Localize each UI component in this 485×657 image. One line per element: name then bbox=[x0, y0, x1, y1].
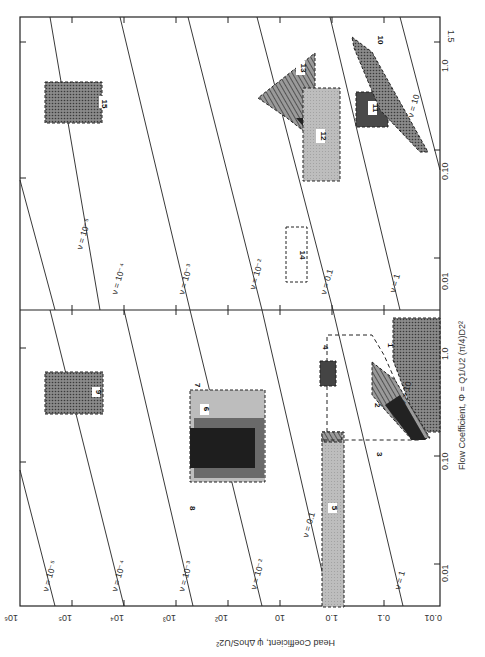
region-label-8: 8 bbox=[188, 506, 197, 511]
nu-line-1e-4-right bbox=[120, 17, 190, 310]
nu-label-1e-4-right: ν = 10⁻⁴ bbox=[109, 262, 128, 296]
nu-label-0.1-right: ν = 0.1 bbox=[318, 268, 335, 296]
psi-tick-10: 10 bbox=[275, 613, 285, 623]
nu-label-1-right: ν = 1 bbox=[387, 273, 402, 294]
region-5 bbox=[322, 432, 344, 607]
psi-tick-1e2: 10² bbox=[215, 613, 228, 623]
region-label-7: 7 bbox=[193, 383, 202, 388]
nu-label-10-right: ν = 10 bbox=[405, 93, 421, 119]
phi-tick-0.01-right: 0.01 bbox=[440, 272, 450, 290]
psi-tick-1e6: 10⁶ bbox=[4, 613, 18, 623]
nu-label-1e-5-right: ν = 10⁻⁵ bbox=[74, 217, 92, 250]
region-label-13: 13 bbox=[299, 64, 308, 73]
phi-tick-1.0-right: 1.0 bbox=[440, 59, 450, 72]
region-label-10-right: 10 bbox=[376, 36, 385, 45]
nu-label-1e-3-right: ν = 10⁻³ bbox=[176, 263, 194, 296]
region-label-12: 12 bbox=[319, 132, 328, 141]
psi-tick-0.01: 0.01 bbox=[424, 613, 442, 623]
region-label-2: 2 bbox=[373, 403, 382, 408]
chart-figure: 10⁶ 10⁵ 10⁴ 10³ 10² 10 1.0 0.1 0.01 Head… bbox=[0, 0, 485, 657]
region-label-14: 14 bbox=[298, 251, 307, 260]
psi-tick-1e3: 10³ bbox=[163, 613, 176, 623]
phi-tick-0.10-left: 0.10 bbox=[440, 452, 450, 470]
region-label-9: 9 bbox=[94, 390, 103, 395]
nu-line-1e-5-left bbox=[50, 310, 124, 606]
region-label-3: 3 bbox=[375, 452, 384, 457]
phi-tick-0.01-left: 0.01 bbox=[440, 564, 450, 582]
region-label-5: 5 bbox=[330, 506, 339, 511]
psi-tick-labels: 10⁶ 10⁵ 10⁴ 10³ 10² 10 1.0 0.1 0.01 bbox=[4, 613, 442, 623]
region-4 bbox=[320, 361, 336, 386]
region-label-15: 15 bbox=[100, 100, 109, 109]
right-panel: 15 13 12 11 10 14 ν = 10⁻⁵ ν = 10⁻⁴ ν = … bbox=[20, 17, 440, 310]
psi-axis-label: Head Coefficient, ψ ΔhoS/U2² bbox=[216, 638, 335, 648]
region-15 bbox=[45, 82, 102, 123]
phi-tick-0.10-right: 0.10 bbox=[440, 162, 450, 180]
nu-label-1e-5-left: ν = 10⁻⁵ bbox=[40, 559, 58, 592]
phi-axis-label: Flow Coefficient, Φ = Q1/U2 (π/4)D2² bbox=[457, 321, 467, 470]
region-8 bbox=[190, 428, 255, 468]
nu-line-1e-5-right bbox=[50, 17, 100, 310]
region-label-4: 4 bbox=[321, 345, 330, 350]
nu-line-edge-right bbox=[20, 180, 55, 310]
phi-tick-labels: 1.5 1.0 0.10 0.01 1.0 0.10 0.01 bbox=[440, 30, 456, 582]
psi-tick-1e5: 10⁵ bbox=[58, 613, 72, 623]
region-label-6: 6 bbox=[202, 407, 211, 412]
nu-label-1-left: ν = 1 bbox=[392, 570, 407, 591]
psi-tick-1e4: 10⁴ bbox=[110, 613, 124, 623]
region-label-1: 1 bbox=[386, 343, 395, 348]
nu-line-1e-3-right bbox=[188, 17, 262, 310]
psi-tick-0.1: 0.1 bbox=[377, 613, 390, 623]
left-panel: 9 7 6 8 5 3 1 4 2 ν = 10⁻⁵ ν = 10⁻⁴ ν = … bbox=[20, 310, 440, 607]
psi-tick-1: 1.0 bbox=[325, 613, 338, 623]
nu-line-1e-2-left bbox=[262, 310, 330, 606]
phi-tick-1.5: 1.5 bbox=[446, 30, 456, 43]
nu-label-0.1-left: ν = 0.1 bbox=[300, 511, 317, 539]
nu-label-1e-4-left: ν = 10⁻⁴ bbox=[109, 559, 128, 593]
phi-tick-1.0-left: 1.0 bbox=[440, 347, 450, 360]
nu-label-1e-3-left: ν = 10⁻³ bbox=[176, 560, 194, 593]
nu-line-1e-4-left bbox=[124, 310, 193, 606]
